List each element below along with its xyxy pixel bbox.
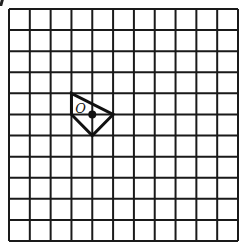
grid-diagram: O bbox=[0, 0, 239, 242]
point-o-label: O bbox=[75, 101, 86, 116]
grid-lines bbox=[9, 9, 238, 241]
point-o-dot bbox=[88, 110, 96, 118]
